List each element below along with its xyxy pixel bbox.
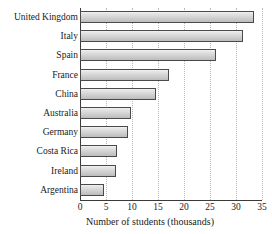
x-axis-tick-labels: 05101520253035 (80, 202, 262, 216)
bar (80, 165, 116, 177)
x-tick-label: 20 (179, 202, 189, 212)
bar-row (80, 123, 262, 142)
category-label: China (0, 85, 78, 104)
bar-row (80, 162, 262, 181)
category-label: Argentina (0, 181, 78, 200)
gridline-35 (262, 8, 263, 200)
category-label: France (0, 66, 78, 85)
bar (80, 88, 156, 100)
category-label: Spain (0, 46, 78, 65)
category-label: Costa Rica (0, 142, 78, 161)
bar-row (80, 104, 262, 123)
category-label: Ireland (0, 162, 78, 181)
bar-row (80, 142, 262, 161)
bar (80, 126, 128, 138)
x-tick-label: 10 (127, 202, 137, 212)
x-tick-label: 0 (78, 202, 83, 212)
bar-row (80, 46, 262, 65)
bar (80, 145, 117, 157)
bar (80, 49, 216, 61)
bar-row (80, 8, 262, 27)
x-tick-label: 15 (153, 202, 163, 212)
x-tick-label: 30 (231, 202, 241, 212)
bar (80, 30, 243, 42)
bar (80, 69, 169, 81)
category-label: Italy (0, 27, 78, 46)
bar-row (80, 66, 262, 85)
x-axis-line (80, 200, 262, 201)
category-label: United Kingdom (0, 8, 78, 27)
x-tick-label: 25 (205, 202, 215, 212)
bar (80, 107, 131, 119)
category-label: Germany (0, 123, 78, 142)
bar-row (80, 181, 262, 200)
bar-row (80, 27, 262, 46)
x-tick-label: 5 (104, 202, 109, 212)
bar (80, 184, 104, 196)
x-axis-title: Number of students (thousands) (0, 216, 272, 227)
plot-area (80, 8, 262, 200)
bar-chart: United KingdomItalySpainFranceChinaAustr… (0, 0, 272, 234)
x-tick-label: 35 (257, 202, 267, 212)
bar-row (80, 85, 262, 104)
bar (80, 11, 254, 23)
category-label: Australia (0, 104, 78, 123)
category-axis-labels: United KingdomItalySpainFranceChinaAustr… (0, 8, 78, 200)
